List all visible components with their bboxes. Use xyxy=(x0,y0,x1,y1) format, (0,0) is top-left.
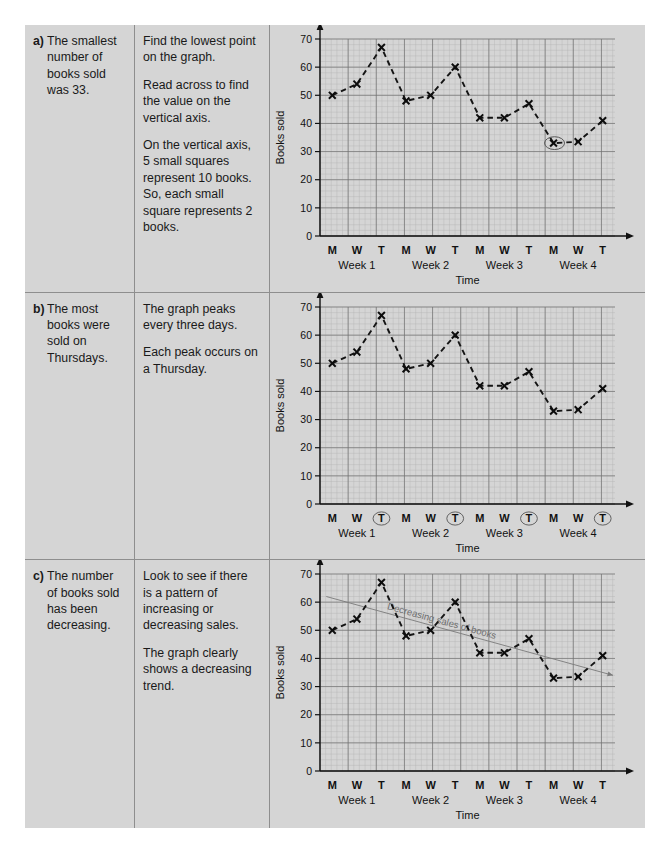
y-axis-arrow xyxy=(317,25,324,30)
x-day-label: M xyxy=(328,779,337,791)
x-day-label: W xyxy=(573,244,584,256)
grid-major xyxy=(320,39,615,236)
chart-a: 010203040506070Books soldMWTMWTMWTMWTWee… xyxy=(270,25,645,292)
answer-row-c: c) The number of books sold has been dec… xyxy=(25,560,645,828)
x-day-label: W xyxy=(425,779,436,791)
x-day-label: W xyxy=(573,779,584,791)
grid-minor xyxy=(320,39,615,236)
chart-c: 010203040506070Books soldMWTMWTMWTMWTWee… xyxy=(270,560,645,828)
x-day-label: T xyxy=(599,779,606,791)
x-group-label: Week 1 xyxy=(338,259,375,271)
y-tick-label: 20 xyxy=(300,709,312,721)
answer-text: The most books were sold on Thursdays. xyxy=(47,301,124,367)
y-tick-label: 30 xyxy=(300,680,312,692)
y-tick-label: 40 xyxy=(300,117,312,129)
y-tick-label: 60 xyxy=(300,596,312,608)
x-group-label: Week 4 xyxy=(560,794,597,806)
x-day-label: T xyxy=(378,244,385,256)
x-axis-title: Time xyxy=(455,809,479,821)
method-step: So, each small square represents 2 books… xyxy=(143,186,259,235)
x-day-label: W xyxy=(499,779,510,791)
method-step: On the vertical axis, 5 small squares re… xyxy=(143,137,259,186)
answer-column-c: c) The number of books sold has been dec… xyxy=(25,560,135,828)
y-tick-label: 70 xyxy=(300,33,312,45)
answer-statement: c) The number of books sold has been dec… xyxy=(33,568,124,634)
method-step: Read across to find the value on the ver… xyxy=(143,77,259,126)
x-day-label: W xyxy=(352,512,363,524)
y-axis-title: Books sold xyxy=(274,378,286,432)
y-tick-label: 30 xyxy=(300,413,312,425)
grid-major xyxy=(320,574,615,771)
answer-text: The number of books sold has been decrea… xyxy=(47,568,124,634)
x-day-label: M xyxy=(549,244,558,256)
x-day-label: T xyxy=(526,244,533,256)
answer-row-a: a) The smallest number of books sold was… xyxy=(25,25,645,293)
x-day-label: T xyxy=(599,244,606,256)
method-step: Find the lowest point on the graph. xyxy=(143,33,259,66)
chart-column-c: 010203040506070Books soldMWTMWTMWTMWTWee… xyxy=(270,560,645,828)
method-step: Look to see if there is a pattern of inc… xyxy=(143,568,259,634)
x-day-label: M xyxy=(549,512,558,524)
y-tick-label: 70 xyxy=(300,568,312,580)
x-group-label: Week 1 xyxy=(338,794,375,806)
y-axis-arrow xyxy=(317,560,324,565)
method-step: The graph clearly shows a decreasing tre… xyxy=(143,645,259,694)
y-axis-title: Books sold xyxy=(274,111,286,165)
x-day-label: M xyxy=(328,244,337,256)
x-axis-arrow xyxy=(626,500,634,507)
answer-column-a: a) The smallest number of books sold was… xyxy=(25,25,135,292)
x-day-label: W xyxy=(352,244,363,256)
answer-column-b: b) The most books were sold on Thursdays… xyxy=(25,293,135,560)
answer-statement: a) The smallest number of books sold was… xyxy=(33,33,124,99)
y-tick-label: 10 xyxy=(300,202,312,214)
x-day-label: T xyxy=(452,244,459,256)
x-day-label: W xyxy=(425,512,436,524)
y-tick-label: 50 xyxy=(300,357,312,369)
x-group-label: Week 4 xyxy=(560,527,597,539)
y-tick-label: 0 xyxy=(306,230,312,242)
x-day-label: W xyxy=(425,244,436,256)
x-axis-arrow xyxy=(626,233,634,240)
x-day-label: M xyxy=(401,779,410,791)
chart-a-svg: 010203040506070Books soldMWTMWTMWTMWTWee… xyxy=(270,25,645,292)
y-tick-label: 70 xyxy=(300,300,312,312)
x-day-label: W xyxy=(499,512,510,524)
x-day-label: M xyxy=(475,512,484,524)
chart-column-b: 010203040506070Books soldMWTMWTMWTMWTWee… xyxy=(270,293,645,560)
y-tick-label: 0 xyxy=(306,497,312,509)
y-tick-label: 0 xyxy=(306,765,312,777)
y-tick-label: 30 xyxy=(300,145,312,157)
grid-minor xyxy=(320,574,615,771)
x-day-label: M xyxy=(475,244,484,256)
y-tick-label: 20 xyxy=(300,441,312,453)
y-tick-label: 20 xyxy=(300,173,312,185)
answer-statement: b) The most books were sold on Thursdays… xyxy=(33,301,124,367)
x-axis-title: Time xyxy=(455,542,479,554)
y-tick-label: 40 xyxy=(300,652,312,664)
x-group-label: Week 4 xyxy=(560,259,597,271)
y-tick-label: 50 xyxy=(300,624,312,636)
method-step: The graph peaks every three days. xyxy=(143,301,259,334)
answer-letter: c) xyxy=(33,568,47,634)
answer-text: The smallest number of books sold was 33… xyxy=(47,33,124,99)
x-day-label: T xyxy=(378,779,385,791)
method-step: Each peak occurs on a Thursday. xyxy=(143,344,259,377)
y-tick-label: 10 xyxy=(300,469,312,481)
answer-letter: a) xyxy=(33,33,47,99)
x-day-label: W xyxy=(573,512,584,524)
x-group-label: Week 1 xyxy=(338,527,375,539)
y-tick-label: 60 xyxy=(300,61,312,73)
x-axis-title: Time xyxy=(455,274,479,286)
y-tick-label: 40 xyxy=(300,385,312,397)
method-column-a: Find the lowest point on the graph. Read… xyxy=(135,25,270,292)
x-day-label: M xyxy=(328,512,337,524)
x-day-label: T xyxy=(526,779,533,791)
answer-row-b: b) The most books were sold on Thursdays… xyxy=(25,293,645,561)
y-tick-label: 60 xyxy=(300,328,312,340)
x-group-label: Week 2 xyxy=(412,527,449,539)
x-day-label: T xyxy=(526,512,533,524)
answer-letter: b) xyxy=(33,301,47,367)
x-day-label: T xyxy=(599,512,606,524)
x-day-label: T xyxy=(452,779,459,791)
x-group-label: Week 3 xyxy=(486,259,523,271)
